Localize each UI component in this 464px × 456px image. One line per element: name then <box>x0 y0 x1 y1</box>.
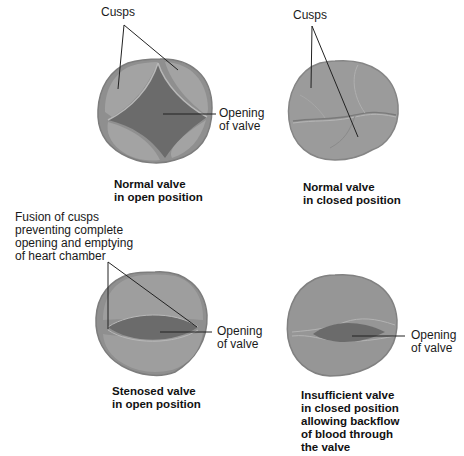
heart-valve-diagram: Cusps Opening of valve Normal valve in o… <box>0 0 464 456</box>
opening-label-3: Opening of valve <box>217 325 262 351</box>
cusps-label-1: Cusps <box>101 6 135 19</box>
cusps-label-2: Cusps <box>293 9 327 22</box>
caption-normal-open: Normal valve in open position <box>114 178 203 204</box>
caption-insufficient-closed: Insufficient valve in closed position al… <box>301 389 399 454</box>
insufficient-closed-valve <box>287 275 397 376</box>
opening-label-1: Opening of valve <box>219 107 264 133</box>
caption-normal-closed: Normal valve in closed position <box>303 181 401 207</box>
normal-closed-valve <box>289 61 399 160</box>
stenosed-open-valve <box>96 272 207 376</box>
caption-stenosed-open: Stenosed valve in open position <box>112 385 201 411</box>
opening-label-4: Opening of valve <box>411 329 456 355</box>
fusion-label: Fusion of cusps preventing complete open… <box>15 211 133 263</box>
normal-open-valve <box>98 59 212 163</box>
